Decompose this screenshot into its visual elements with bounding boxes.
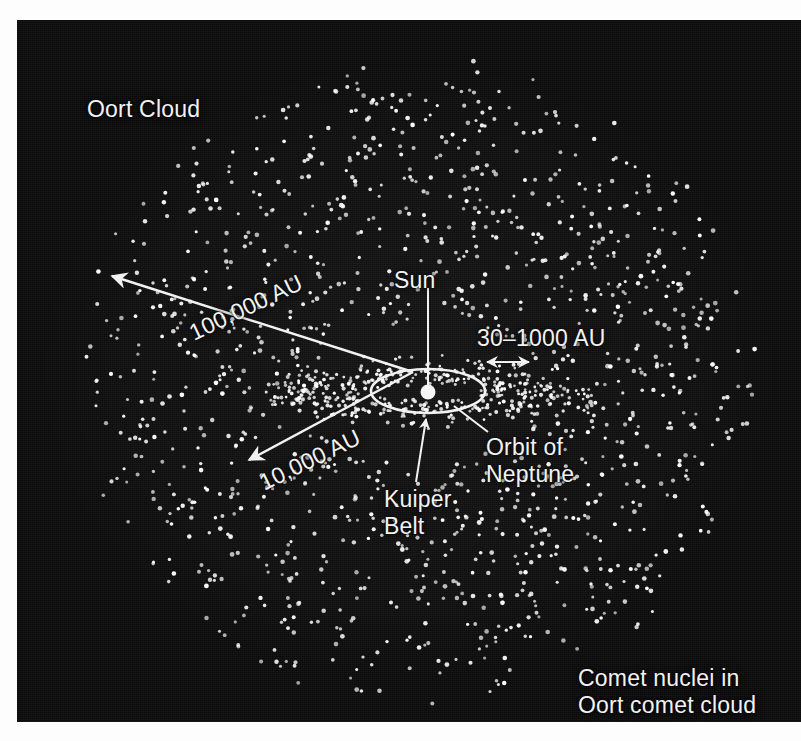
oort-cloud-label: Oort Cloud: [87, 96, 200, 123]
annotation-lines: [17, 20, 801, 722]
sun-label: Sun: [394, 267, 436, 294]
figure-caption: Comet nuclei in Oort comet cloud: [578, 665, 756, 719]
sun-marker: [421, 385, 436, 400]
figure-root: Oort Cloud Sun 100,000 AU 10,000 AU 30–1…: [0, 0, 801, 741]
space-panel: Oort Cloud Sun 100,000 AU 10,000 AU 30–1…: [17, 20, 801, 722]
neptune-orbit-label: Orbit of Neptune: [486, 434, 574, 488]
kuiper-belt-label: Kuiper Belt: [384, 486, 452, 540]
kuiper-leader-line: [416, 419, 426, 482]
kuiper-extent-label: 30–1000 AU: [477, 325, 606, 352]
neptune-leader-line: [454, 406, 488, 432]
